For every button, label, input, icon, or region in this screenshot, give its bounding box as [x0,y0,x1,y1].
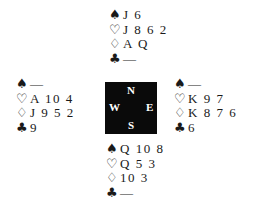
south-hand: ♠ Q 10 8 ♡ Q 5 3 ♢ 10 3 ♣ — [106,142,164,200]
south-diamonds-row: ♢ 10 3 [106,171,164,186]
heart-icon: ♡ [106,157,118,172]
east-hand: ♠ — ♡ K 9 7 ♢ K 8 7 6 ♣ 6 [174,77,237,135]
club-icon: ♣ [174,121,186,136]
south-diamonds: 10 3 [120,171,149,186]
east-hearts-row: ♡ K 9 7 [174,92,237,107]
diamond-icon: ♢ [16,106,28,121]
east-hearts: K 9 7 [188,92,224,107]
club-icon: ♣ [106,186,118,201]
north-hearts-row: ♡ J 8 6 2 [109,23,168,38]
west-clubs: 9 [30,121,38,136]
compass-east-label: E [146,102,153,113]
spade-icon: ♠ [109,8,121,23]
west-hand: ♠ — ♡ A 10 4 ♢ J 9 5 2 ♣ 9 [16,77,75,135]
west-clubs-row: ♣ 9 [16,121,75,136]
west-diamonds: J 9 5 2 [30,106,75,121]
north-diamonds: A Q [123,37,149,52]
east-clubs-row: ♣ 6 [174,121,237,136]
spade-icon: ♠ [16,77,28,92]
diamond-icon: ♢ [106,171,118,186]
heart-icon: ♡ [16,92,28,107]
diamond-icon: ♢ [109,37,121,52]
diamond-icon: ♢ [174,106,186,121]
south-spades-row: ♠ Q 10 8 [106,142,164,157]
north-clubs-row: ♣ — [109,52,168,67]
east-clubs: 6 [188,121,196,136]
north-hearts: J 8 6 2 [123,23,168,38]
club-icon: ♣ [109,52,121,67]
west-spades: — [30,77,45,92]
compass-north-label: N [127,85,135,96]
east-diamonds: K 8 7 6 [188,106,237,121]
south-spades: Q 10 8 [120,142,164,157]
spade-icon: ♠ [174,77,186,92]
north-clubs: — [123,52,138,67]
south-hearts: Q 5 3 [120,157,156,172]
north-diamonds-row: ♢ A Q [109,37,168,52]
compass-south-label: S [128,120,134,131]
south-hearts-row: ♡ Q 5 3 [106,157,164,172]
south-clubs-row: ♣ — [106,186,164,201]
north-spades-row: ♠ J 6 [109,8,168,23]
heart-icon: ♡ [174,92,186,107]
east-spades: — [188,77,203,92]
west-hearts-row: ♡ A 10 4 [16,92,75,107]
west-hearts: A 10 4 [30,92,74,107]
west-spades-row: ♠ — [16,77,75,92]
north-hand: ♠ J 6 ♡ J 8 6 2 ♢ A Q ♣ — [109,8,168,66]
compass-box: N W E S [105,82,157,134]
compass-west-label: W [109,102,120,113]
east-spades-row: ♠ — [174,77,237,92]
south-clubs: — [120,186,135,201]
spade-icon: ♠ [106,142,118,157]
west-diamonds-row: ♢ J 9 5 2 [16,106,75,121]
club-icon: ♣ [16,121,28,136]
heart-icon: ♡ [109,23,121,38]
east-diamonds-row: ♢ K 8 7 6 [174,106,237,121]
north-spades: J 6 [123,8,142,23]
